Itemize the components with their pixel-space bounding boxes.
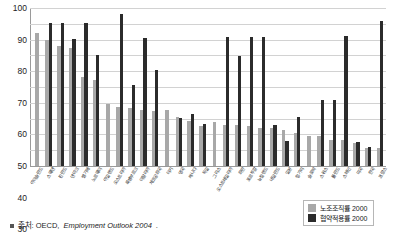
bar [273, 125, 276, 166]
y-axis-tick-label: 70 [18, 99, 27, 108]
bar [203, 124, 206, 166]
bar-group [339, 8, 351, 166]
legend-swatch [308, 214, 316, 222]
bar [72, 39, 75, 166]
source-prefix: 출처: OECD, [18, 222, 60, 230]
bar-group [43, 8, 55, 166]
bar-group [114, 8, 126, 166]
bullet-icon [10, 224, 14, 228]
bar-group [374, 8, 386, 166]
bar-group [66, 8, 78, 166]
x-axis-tick-label: 룩셈부르크 [126, 167, 140, 186]
x-axis-tick-label: 캐나다 [189, 167, 199, 179]
x-axis-tick-label: 노르웨이 [92, 167, 104, 183]
bar [344, 36, 347, 166]
source-suffix: . [156, 222, 158, 230]
bar-group [350, 8, 362, 166]
bar-group [208, 8, 220, 166]
source-emphasis: Employment Outlook 2004 [63, 222, 151, 230]
plot-area: 0102030405060708090100 [30, 8, 386, 166]
bar [307, 136, 310, 166]
bar [213, 122, 216, 166]
bar [165, 110, 168, 166]
x-axis-tick-label: 스웨덴 [47, 167, 57, 179]
bar [262, 37, 265, 166]
bar [120, 14, 123, 166]
bar-series-group [31, 8, 386, 166]
y-axis-tick-label: 90 [18, 35, 27, 44]
bar [35, 33, 38, 167]
x-axis-tick-label: 프랑스 [379, 167, 389, 179]
bar-group [197, 8, 209, 166]
bar-group [268, 8, 280, 166]
x-axis-tick-label: 터키 [167, 167, 175, 176]
bar [250, 37, 253, 166]
bar-group [90, 8, 102, 166]
bar-group [126, 8, 138, 166]
y-axis-tick-label: 60 [18, 130, 27, 139]
x-axis-tick-label: 뉴질랜드 [258, 167, 270, 183]
bar [285, 141, 288, 166]
bar-group [78, 8, 90, 166]
bar-group [161, 8, 173, 166]
x-axis-tick-label: 폴란드 [331, 167, 341, 179]
bar [368, 147, 371, 166]
bar-group [327, 8, 339, 166]
bar [191, 114, 194, 166]
bar [356, 142, 359, 166]
x-axis-tick-label: 영국 [179, 167, 187, 176]
legend-label: 노조조직률 2000 [320, 205, 368, 212]
bar-group [173, 8, 185, 166]
bar-group [315, 8, 327, 166]
bar-group [279, 8, 291, 166]
bar [49, 23, 52, 166]
x-axis-tick-label: 화란 [239, 167, 247, 176]
x-axis-tick-label: 미국 [357, 167, 365, 176]
y-axis-tick-label: 50 [18, 162, 27, 171]
bar [155, 70, 158, 166]
y-axis-tick-label: 100 [13, 4, 27, 13]
x-axis-tick-label: 독일 [203, 167, 211, 176]
x-axis-tick-label: 그리스 [213, 167, 223, 179]
bar-group [185, 8, 197, 166]
chart-figure: 0102030405060708090100 아이슬란드스웨덴핀란드덴마크벨기에… [0, 0, 394, 244]
bar-group [362, 8, 374, 166]
bar-group [137, 8, 149, 166]
bar [106, 104, 109, 166]
bar [297, 117, 300, 166]
x-axis-tick-label: 일본 [286, 167, 294, 176]
x-axis-tick-label: 아이슬란드 [31, 167, 45, 186]
bar [321, 100, 324, 166]
bar-group [256, 8, 268, 166]
bar-group [232, 8, 244, 166]
bar-group [291, 8, 303, 166]
x-axis-tick-label: 덴마크 [70, 167, 80, 179]
bar [333, 100, 336, 166]
bar-group [303, 8, 315, 166]
x-axis-tick-label: 헝가리 [296, 167, 306, 179]
x-axis-tick-label: 슬로박 [308, 167, 318, 179]
legend-item: 협약적용률 2000 [308, 214, 368, 222]
legend-label: 협약적용률 2000 [320, 215, 368, 222]
bar [143, 38, 146, 166]
bar [132, 85, 135, 166]
x-axis-tick-label: 스페인 [343, 167, 353, 179]
x-axis-tick-label: 스위스 [320, 167, 330, 179]
bar [96, 55, 99, 166]
bar-group [31, 8, 43, 166]
legend-item: 노조조직률 2000 [308, 204, 368, 212]
bar-group [55, 8, 67, 166]
legend-swatch [308, 204, 316, 212]
bar [179, 118, 182, 166]
bar-group [244, 8, 256, 166]
bar [238, 56, 241, 166]
bar-group [149, 8, 161, 166]
x-axis-tick-label: 한국 [369, 167, 377, 176]
source-note: 출처: OECD, Employment Outlook 2004 . [10, 222, 158, 230]
x-axis-tick-label: 포르투갈 [246, 167, 258, 183]
bar [380, 21, 383, 166]
x-axis-tick-label: 핀란드 [58, 167, 68, 179]
bar [84, 23, 87, 166]
chart-legend: 노조조직률 2000협약적용률 2000 [303, 200, 374, 226]
bar-group [102, 8, 114, 166]
